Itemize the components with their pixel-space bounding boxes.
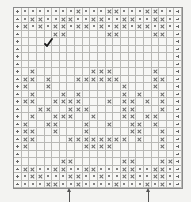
empty-cell [129,53,137,61]
cross-cell [129,128,137,136]
empty-cell [52,91,60,99]
empty-cell [67,68,75,76]
dot-cell [113,16,121,24]
cross-cell [75,91,83,99]
cross-cell [22,166,30,174]
empty-cell [75,61,83,69]
empty-cell [60,151,68,159]
empty-cell [98,61,106,69]
plus-cell [14,166,22,174]
cross-cell [90,143,98,151]
cross-cell [83,128,91,136]
cross-cell [152,166,160,174]
empty-cell [167,61,175,69]
empty-cell [75,83,83,91]
empty-cell [136,76,144,84]
plus-cell [14,136,22,144]
empty-cell [37,136,45,144]
empty-cell [90,83,98,91]
plus-cell [174,38,182,46]
dot-cell [90,181,98,189]
dot-cell [75,166,83,174]
dot-cell [45,173,53,181]
empty-cell [167,136,175,144]
empty-cell [22,158,30,166]
empty-cell [144,53,152,61]
empty-cell [129,38,137,46]
empty-cell [37,121,45,129]
empty-cell [90,91,98,99]
empty-cell [90,31,98,39]
dot-cell [136,166,144,174]
cross-cell [75,136,83,144]
plus-cell [174,98,182,106]
empty-cell [75,128,83,136]
cross-cell [98,136,106,144]
cross-cell [60,158,68,166]
empty-cell [37,143,45,151]
dot-cell [67,181,75,189]
plus-cell [174,128,182,136]
dot-cell [83,16,91,24]
empty-cell [113,151,121,159]
dot-cell [144,166,152,174]
cross-cell [67,158,75,166]
cross-cell [159,23,167,31]
cross-cell [75,98,83,106]
empty-cell [98,53,106,61]
empty-cell [37,76,45,84]
empty-cell [167,68,175,76]
empty-cell [52,46,60,54]
cross-cell [22,98,30,106]
empty-cell [52,61,60,69]
empty-cell [67,143,75,151]
dot-cell [98,166,106,174]
empty-cell [159,151,167,159]
cross-cell [144,8,152,16]
cross-cell [152,121,160,129]
empty-cell [98,121,106,129]
cross-cell [29,16,37,24]
empty-cell [75,151,83,159]
cross-cell [29,91,37,99]
empty-cell [75,113,83,121]
dot-cell [37,181,45,189]
empty-cell [136,53,144,61]
cross-cell [106,31,114,39]
dot-cell [29,8,37,16]
dot-cell [121,181,129,189]
empty-cell [60,46,68,54]
cross-cell [29,128,37,136]
empty-cell [52,151,60,159]
dot-cell [152,23,160,31]
dot-cell [167,23,175,31]
cross-cell [113,136,121,144]
plus-cell [14,23,22,31]
empty-cell [83,151,91,159]
empty-cell [136,68,144,76]
empty-cell [29,121,37,129]
cross-cell [22,76,30,84]
empty-cell [106,128,114,136]
dot-cell [90,8,98,16]
plus-cell [14,8,22,16]
empty-cell [67,38,75,46]
empty-cell [106,38,114,46]
cross-cell [129,16,137,24]
empty-cell [129,83,137,91]
empty-cell [83,158,91,166]
cross-cell [152,113,160,121]
empty-cell [67,53,75,61]
stitch-chart-grid [13,7,183,189]
dot-cell [52,8,60,16]
cross-cell [52,128,60,136]
empty-cell [67,128,75,136]
plus-cell [14,158,22,166]
empty-cell [152,61,160,69]
empty-cell [167,106,175,114]
dot-cell [129,23,137,31]
cross-cell [159,136,167,144]
empty-cell [60,143,68,151]
empty-cell [37,113,45,121]
cross-cell [113,23,121,31]
